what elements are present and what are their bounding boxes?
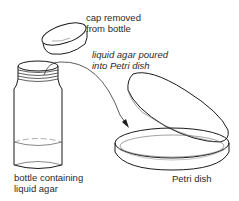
- bottle: [14, 61, 62, 169]
- pour-arrow: [44, 62, 129, 128]
- petri-dish-base: [115, 128, 229, 170]
- bottle-cap: [39, 18, 88, 54]
- petri-dish-label: Petri dish: [172, 173, 212, 184]
- pour-label: liquid agar poured into Petri dish: [92, 49, 168, 71]
- petri-dish-lid: [128, 73, 228, 142]
- bottle-label: bottle containing liquid agar: [14, 172, 83, 194]
- cap-label: cap removed from bottle: [86, 12, 141, 34]
